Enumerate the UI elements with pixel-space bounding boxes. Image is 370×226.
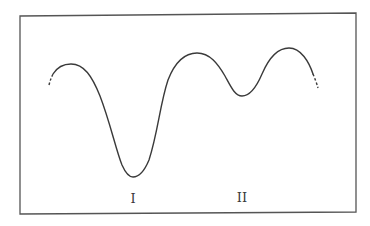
minimum-label-I: I	[130, 191, 135, 206]
curve-end-dashed	[313, 74, 318, 88]
energy-curve	[53, 48, 313, 177]
curve-start-dashed	[49, 74, 53, 85]
energy-diagram: I II	[0, 0, 370, 226]
frame-border	[20, 13, 356, 214]
minimum-label-II: II	[237, 190, 247, 205]
